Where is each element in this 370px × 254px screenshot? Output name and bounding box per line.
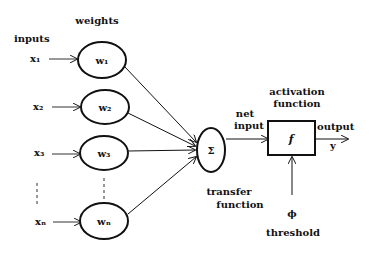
connection-1 (125, 67, 196, 142)
activation-label: activation (269, 86, 325, 97)
transfer-function-label: function (216, 199, 264, 210)
weight-w3: w₃ (97, 148, 111, 159)
connection-n (128, 157, 196, 214)
net-label: net (236, 108, 255, 119)
output-y: y (329, 140, 337, 151)
output-label: output (317, 121, 355, 132)
transfer-label: transfer (206, 186, 252, 197)
weight-wn: wₙ (96, 216, 111, 227)
inputs-label: inputs (14, 33, 50, 44)
weights-label: weights (74, 15, 119, 26)
activation-function-label: function (273, 98, 321, 109)
sigma-symbol: Σ (207, 145, 214, 156)
weight-w1: w₁ (95, 55, 109, 66)
connection-2 (128, 113, 195, 146)
connection-3 (128, 150, 195, 151)
input-x2: x₂ (33, 101, 43, 112)
threshold-label: threshold (266, 227, 320, 238)
input-x1: x₁ (30, 53, 40, 64)
weight-w2: w₂ (98, 102, 112, 113)
input-xn: xₙ (35, 216, 46, 227)
input-label: input (234, 120, 264, 131)
neuron-diagram: weights inputs x₁ x₂ x₃ xₙ w₁ w₂ w₃ wₙ Σ… (0, 0, 370, 254)
phi-symbol: ϕ (287, 208, 296, 219)
input-x3: x₃ (34, 147, 44, 158)
